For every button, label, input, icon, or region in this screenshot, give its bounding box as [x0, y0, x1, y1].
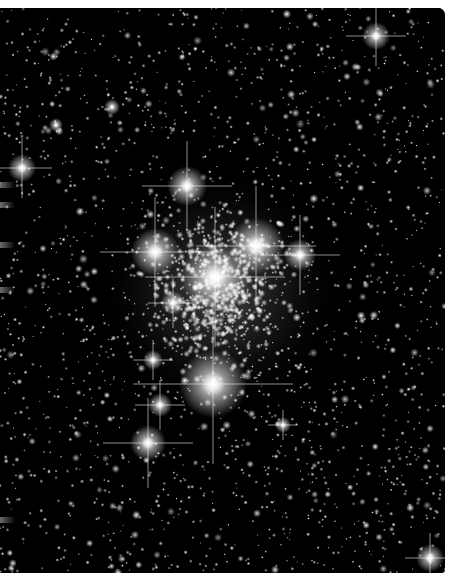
starfield-canvas: [0, 8, 445, 573]
star-cluster-image: Star cluster: [0, 8, 445, 573]
